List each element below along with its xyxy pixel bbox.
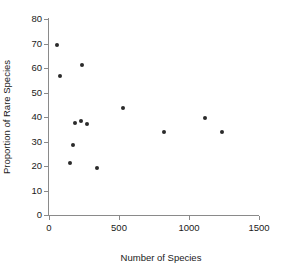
y-tick-label: 80 [16, 14, 42, 24]
x-tick-mark [119, 216, 120, 220]
data-point [85, 122, 89, 126]
x-tick-mark [259, 216, 260, 220]
y-axis-title: Proportion of Rare Species [2, 19, 16, 215]
y-tick-label: 30 [16, 137, 42, 147]
x-tick-mark [189, 216, 190, 220]
y-tick-label: 70 [16, 39, 42, 49]
x-tick-mark [49, 216, 50, 220]
data-point [71, 143, 75, 147]
y-tick-mark [44, 166, 48, 167]
data-point [58, 74, 62, 78]
y-tick-label: 60 [16, 63, 42, 73]
y-tick-label: 20 [16, 161, 42, 171]
y-tick-mark [44, 191, 48, 192]
x-tick-label: 0 [29, 223, 69, 233]
y-tick-mark [44, 93, 48, 94]
x-tick-label: 1500 [239, 223, 279, 233]
y-tick-mark [44, 117, 48, 118]
y-tick-mark [44, 19, 48, 20]
data-point [80, 63, 84, 67]
y-tick-label: 10 [16, 186, 42, 196]
y-axis-line [48, 18, 49, 216]
data-point [55, 43, 59, 47]
y-tick-label: 40 [16, 112, 42, 122]
y-tick-mark [44, 44, 48, 45]
y-tick-mark [44, 68, 48, 69]
data-point [121, 106, 125, 110]
y-tick-label: 50 [16, 88, 42, 98]
scatter-plot: 01020304050607080 050010001500 Number of… [0, 0, 282, 276]
data-point [203, 116, 207, 120]
y-tick-mark [44, 142, 48, 143]
y-tick-label: 0 [16, 210, 42, 220]
x-axis-line [48, 215, 259, 216]
data-point [95, 166, 99, 170]
data-point [220, 130, 224, 134]
data-point [162, 130, 166, 134]
y-tick-mark [44, 215, 48, 216]
data-point [73, 121, 77, 125]
x-tick-label: 500 [99, 223, 139, 233]
data-point [79, 119, 83, 123]
x-axis-title: Number of Species [0, 253, 282, 263]
data-point [68, 161, 72, 165]
x-tick-label: 1000 [169, 223, 209, 233]
